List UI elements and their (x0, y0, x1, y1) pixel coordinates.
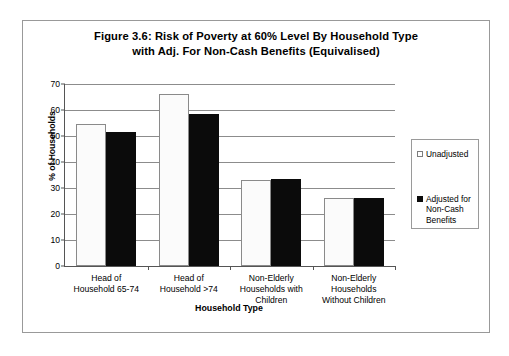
category-group (148, 84, 231, 266)
y-tick-label: 10 (50, 236, 60, 245)
x-axis-title: Household Type (64, 303, 394, 313)
figure-frame: Figure 3.6: Risk of Poverty at 60% Level… (22, 20, 490, 333)
category-group (65, 84, 148, 266)
chart-title: Figure 3.6: Risk of Poverty at 60% Level… (23, 29, 489, 59)
category-group (313, 84, 396, 266)
y-tick-label: 30 (50, 184, 60, 193)
legend-label-unadjusted: Unadjusted (426, 149, 468, 159)
y-tick-label: 60 (50, 106, 60, 115)
x-tick-mark (313, 266, 314, 270)
bar-unadjusted (241, 180, 271, 266)
x-tick-label-line: Non-Elderly (305, 273, 404, 284)
x-tick-label-line: Households (305, 284, 404, 295)
category-group (230, 84, 313, 266)
legend-swatch-adjusted-icon (417, 196, 423, 202)
x-tick-mark (148, 266, 149, 270)
x-tick-label: Non-ElderlyHouseholdsWithout Children (305, 273, 404, 305)
chart-legend: Unadjusted Adjusted for Non-Cash Benefit… (411, 139, 479, 229)
chart-title-line-1: Figure 3.6: Risk of Poverty at 60% Level… (94, 30, 418, 42)
bar-unadjusted (324, 198, 354, 266)
x-tick-mark (395, 266, 396, 270)
bar-adjusted (106, 132, 136, 266)
chart-title-line-2: with Adj. For Non-Cash Benefits (Equival… (23, 44, 489, 59)
bar-adjusted (354, 198, 384, 266)
bar-unadjusted (159, 94, 189, 266)
y-tick-label: 0 (55, 262, 60, 271)
legend-label-adjusted: Adjusted for Non-Cash Benefits (426, 194, 471, 225)
y-tick-label: 40 (50, 158, 60, 167)
bar-adjusted (271, 179, 301, 266)
legend-entry-unadjusted[interactable]: Unadjusted (417, 149, 468, 159)
legend-swatch-unadjusted-icon (417, 151, 423, 157)
y-tick-label: 50 (50, 132, 60, 141)
legend-entry-adjusted[interactable]: Adjusted for Non-Cash Benefits (417, 194, 471, 225)
bar-unadjusted (76, 124, 106, 266)
y-tick-label: 20 (50, 210, 60, 219)
plot-area: 010203040506070Head ofHousehold 65-74Hea… (64, 84, 395, 267)
bar-adjusted (189, 114, 219, 266)
x-tick-mark (230, 266, 231, 270)
y-tick-label: 70 (50, 80, 60, 89)
